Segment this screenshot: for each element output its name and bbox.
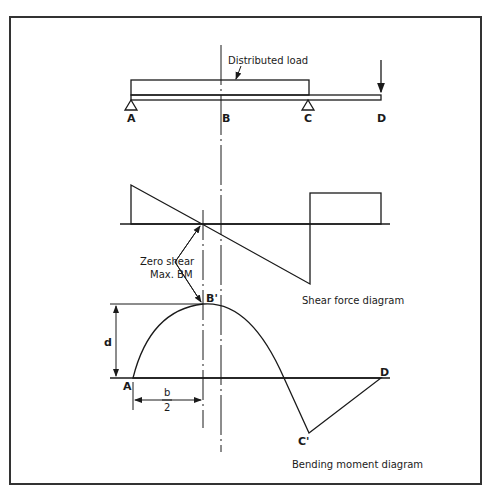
beam xyxy=(131,95,381,100)
bmd-title: Bending moment diagram xyxy=(292,459,423,470)
beam-loading-diagram: Distributed load A B C D xyxy=(125,55,386,125)
sfd-overhang-rect xyxy=(310,193,381,224)
beam-diagram-figure: Distributed load A B C D Shear force dia… xyxy=(0,0,494,503)
load-leader-arrow-icon xyxy=(236,66,241,79)
bmd-positive-region xyxy=(133,304,284,378)
shear-force-diagram: Shear force diagram Zero shear Max. BM xyxy=(120,185,404,306)
point-a-label: A xyxy=(127,112,136,125)
distributed-load-label: Distributed load xyxy=(228,55,308,66)
point-d-label: D xyxy=(377,112,386,125)
point-b-label: B xyxy=(222,112,230,125)
sfd-negative-triangle xyxy=(202,224,310,284)
sfd-title: Shear force diagram xyxy=(302,295,404,306)
b-prime-label: B' xyxy=(206,292,218,305)
d-label: d xyxy=(104,336,112,349)
leader-down-arrow-icon xyxy=(175,262,201,302)
figure-frame xyxy=(10,17,481,484)
c-prime-label: C' xyxy=(298,435,309,448)
distributed-load-block xyxy=(131,80,309,95)
half-span-denominator: 2 xyxy=(164,402,170,413)
half-span-numerator: b xyxy=(164,387,170,398)
support-a-icon xyxy=(125,100,137,110)
zero-shear-label: Zero shear xyxy=(140,256,195,267)
support-c-icon xyxy=(302,100,314,110)
bmd-d-label: D xyxy=(380,366,389,379)
bmd-negative-region xyxy=(284,378,381,433)
bmd-a-label: A xyxy=(123,380,132,393)
bending-moment-diagram: d b 2 B' A D C' Bending moment diagram xyxy=(104,292,423,470)
sfd-positive-triangle xyxy=(131,185,202,224)
point-c-label: C xyxy=(304,112,312,125)
